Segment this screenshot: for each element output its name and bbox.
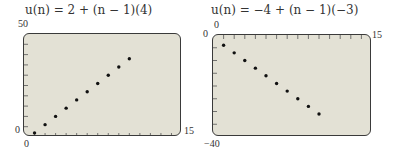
data-point [117,65,120,68]
chart-right: u(n) = −4 + (n − 1)(−3) 0 0 15 −40 [197,0,397,154]
chart-left-title: u(n) = 2 + (n − 1)(4) [25,3,152,17]
data-point [86,90,89,93]
data-point [96,82,99,85]
chart-right-title: u(n) = −4 + (n − 1)(−3) [211,3,358,17]
chart-right-xmax-label: 15 [372,29,382,40]
data-point [107,74,110,77]
data-point [75,98,78,101]
data-point [64,106,67,109]
data-point [43,123,46,126]
data-point [307,105,310,108]
chart-left-ymax-label: 50 [18,18,28,29]
chart-right-ymin-label: −40 [204,138,220,149]
chart-left-xmin-label: 0 [24,138,29,149]
chart-left-xmax-label: 15 [184,125,194,136]
data-point [254,66,257,69]
data-point [296,97,299,100]
chart-right-screen [212,34,371,136]
data-point [233,51,236,54]
data-point [275,82,278,85]
data-point [264,74,267,77]
data-point [54,115,57,118]
data-point [286,89,289,92]
chart-right-plot [213,35,371,136]
chart-left-ymin-label: 0 [15,124,20,135]
chart-right-ymax-label: 0 [214,19,219,30]
data-point [317,112,320,115]
chart-right-xmin-label: 0 [203,28,208,39]
chart-left-plot [24,34,181,136]
data-point [128,57,131,60]
chart-left: u(n) = 2 + (n − 1)(4) 50 0 0 15 [0,0,197,154]
chart-left-screen [23,33,181,136]
data-point [33,131,36,134]
data-point [222,44,225,47]
data-point [243,59,246,62]
